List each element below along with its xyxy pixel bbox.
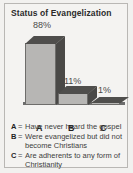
page-title: Status of Evangelization (11, 8, 112, 18)
chart-plot-area: 88% 11% 1% A B C (5, 18, 129, 108)
legend-key-b: B (11, 132, 18, 142)
legend-separator-c: = (18, 151, 25, 161)
data-label-c: 1% (98, 85, 111, 95)
data-label-b: 11% (64, 76, 81, 86)
chart-card: Status of Evangelization 88% 11% 1% A B … (4, 3, 128, 168)
legend-text-c: Are adherents to any form of Christianit… (25, 151, 125, 170)
legend-separator-b: = (18, 132, 25, 142)
legend-item-a: A = Have never heard the gospel (11, 122, 125, 132)
legend-item-b: B = Were evangelized but did not become … (11, 132, 125, 151)
bar-c-top-face (91, 97, 129, 103)
chart-legend: A = Have never heard the gospel B = Were… (11, 122, 125, 170)
bar-a-front-face (25, 43, 56, 105)
legend-key-c: C (11, 151, 18, 161)
legend-text-a: Have never heard the gospel (25, 122, 121, 132)
bar-c (91, 97, 129, 106)
legend-text-b: Were evangelized but did not become Chri… (25, 132, 125, 151)
legend-item-c: C = Are adherents to any form of Christi… (11, 151, 125, 170)
legend-separator-a: = (18, 122, 25, 132)
legend-key-a: A (11, 122, 18, 132)
data-label-a: 88% (33, 20, 51, 30)
bar-b-front-face (58, 93, 88, 105)
